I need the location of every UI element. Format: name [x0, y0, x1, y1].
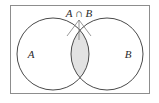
intersection-label-left-operand: A: [65, 7, 73, 19]
venn-diagram-figure: A∩B A B: [0, 0, 159, 103]
intersection-label: A∩B: [65, 7, 93, 19]
set-a-label: A: [27, 48, 35, 60]
set-b-label: B: [125, 48, 132, 60]
intersection-operator-icon: ∩: [75, 7, 83, 19]
venn-diagram-canvas: A∩B A B: [0, 0, 159, 103]
intersection-label-right-operand: B: [85, 7, 92, 19]
